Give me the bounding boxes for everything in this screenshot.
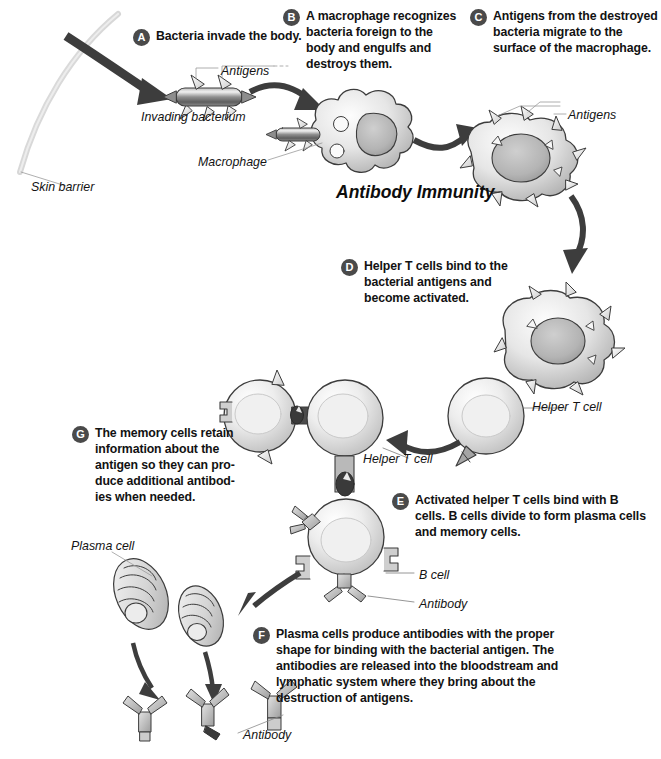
step-callout-b: B A macrophage recognizes bacteria forei…: [283, 8, 458, 72]
step-text-d: Helper T cells bind to the bacterial ant…: [364, 258, 540, 306]
arrow-a-to-b: [250, 85, 325, 110]
step-text-e: Activated helper T cells bind with B cel…: [415, 492, 651, 540]
step-callout-c: C Antigens from the destroyed bacteria m…: [470, 8, 661, 56]
step-badge-a: A: [133, 29, 150, 46]
label-antigens-bacterium: Antigens: [221, 64, 269, 78]
arrow-c-to-d: [563, 196, 588, 274]
step-badge-e: E: [392, 493, 409, 510]
step-callout-e: E Activated helper T cells bind with B c…: [392, 492, 651, 540]
step-callout-d: D Helper T cells bind to the bacterial a…: [341, 258, 540, 306]
step-text-f: Plasma cells produce antibodies with the…: [276, 626, 586, 706]
step-text-c: Antigens from the destroyed bacteria mig…: [493, 8, 661, 56]
step-badge-f: F: [253, 627, 270, 644]
step-callout-f: F Plasma cells produce antibodies with t…: [253, 626, 586, 706]
figure-title: Antibody Immunity: [336, 182, 494, 203]
label-invading-bacterium: Invading bacterium: [141, 110, 246, 124]
invasion-arrow: [66, 36, 172, 105]
free-antibody-2-illustration: [186, 688, 229, 740]
step-badge-g: G: [72, 426, 89, 443]
label-helper-t-cell-middle: Helper T cell: [363, 452, 433, 466]
step-badge-b: B: [283, 9, 300, 26]
label-skin-barrier: Skin barrier: [31, 180, 94, 194]
arrow-e-to-f: [238, 573, 300, 616]
step-callout-g: G The memory cells retain information ab…: [72, 425, 243, 505]
free-antibody-1-illustration: [123, 696, 167, 741]
macrophage-engulfing-illustration: [266, 89, 413, 172]
step-badge-d: D: [341, 259, 358, 276]
label-plasma-cell: Plasma cell: [71, 539, 134, 553]
plasma-cell-small-illustration: [171, 580, 232, 653]
plasma-cell-large-illustration: [103, 550, 179, 638]
helper-t-cell-right-illustration: [448, 378, 566, 466]
step-text-g: The memory cells retain information abou…: [95, 425, 243, 505]
label-antigens-macrophage: Antigens: [568, 108, 616, 122]
step-text-b: A macrophage recognizes bacteria foreign…: [306, 8, 458, 72]
label-b-cell: B cell: [419, 568, 449, 582]
label-macrophage: Macrophage: [198, 155, 267, 169]
step-badge-c: C: [470, 9, 487, 26]
label-antibody-b-cell: Antibody: [419, 597, 467, 611]
label-helper-t-cell-right: Helper T cell: [532, 400, 602, 414]
antibody-release-arrows: [133, 643, 222, 704]
label-antibody-free: Antibody: [243, 728, 291, 742]
